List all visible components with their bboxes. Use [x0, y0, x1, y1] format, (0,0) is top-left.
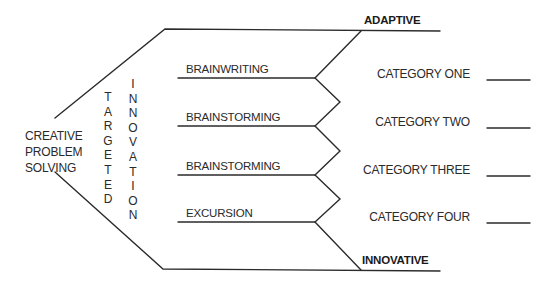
category-label-3: CATEGORY THREE: [320, 163, 470, 177]
technique-label-2: BRAINSTORMING: [186, 111, 280, 123]
letter: I: [126, 179, 140, 194]
letter: N: [126, 106, 140, 121]
letter: A: [126, 150, 140, 165]
letter: V: [126, 135, 140, 150]
letter: T: [101, 163, 115, 178]
letter: A: [101, 105, 115, 120]
letter: T: [101, 90, 115, 105]
letter: E: [101, 178, 115, 193]
letter: D: [101, 192, 115, 207]
technique-label-1: BRAINWRITING: [186, 63, 269, 75]
category-label-1: CATEGORY ONE: [320, 67, 470, 81]
letter: N: [126, 208, 140, 223]
letter: R: [101, 119, 115, 134]
vertical-label-targeted: T A R G E T E D: [101, 90, 115, 207]
technique-label-4: EXCURSION: [186, 207, 253, 219]
letter: G: [101, 134, 115, 149]
letter: T: [126, 165, 140, 180]
technique-label-3: BRAINSTORMING: [186, 160, 280, 172]
vertical-label-innovation: I N N O V A T I O N: [126, 77, 140, 223]
letter: I: [126, 77, 140, 92]
letter: O: [126, 121, 140, 136]
letter: N: [126, 92, 140, 107]
adaptive-label: ADAPTIVE: [364, 14, 421, 26]
innovative-label: INNOVATIVE: [362, 254, 429, 266]
letter: O: [126, 194, 140, 209]
start-label-line-3: SOLVING: [25, 160, 83, 176]
start-label: CREATIVE PROBLEM SOLVING: [25, 128, 83, 176]
start-label-line-2: PROBLEM: [25, 144, 83, 160]
category-label-2: CATEGORY TWO: [320, 115, 470, 129]
start-label-line-1: CREATIVE: [25, 128, 83, 144]
diagram-canvas: CREATIVE PROBLEM SOLVING T A R G E T E D…: [0, 0, 556, 286]
connector-lines: [0, 0, 556, 286]
letter: E: [101, 148, 115, 163]
category-label-4: CATEGORY FOUR: [320, 210, 470, 224]
